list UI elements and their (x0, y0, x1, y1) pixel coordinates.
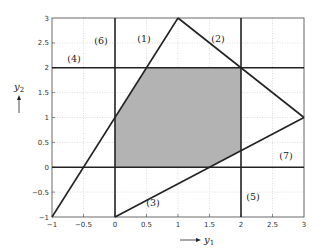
svg-text:0.5: 0.5 (141, 221, 152, 229)
label-4: (4) (67, 53, 80, 64)
svg-text:1: 1 (45, 114, 49, 122)
svg-text:2.5: 2.5 (267, 221, 278, 229)
y-tick-labels: −1 −0.5 0 0.5 1 1.5 2 2.5 3 (32, 15, 49, 222)
svg-text:2.5: 2.5 (38, 39, 49, 47)
svg-text:0.5: 0.5 (38, 139, 49, 147)
x-axis-label: y1 (180, 234, 214, 247)
feasible-region (115, 68, 241, 168)
feasible-region-chart: (1) (2) (3) (4) (5) (6) (7) −1 −0.5 0 0.… (0, 0, 322, 249)
svg-text:1: 1 (176, 221, 180, 229)
svg-text:1.5: 1.5 (38, 89, 49, 97)
svg-text:−1: −1 (39, 214, 49, 222)
label-7: (7) (279, 150, 292, 161)
label-5: (5) (246, 191, 259, 202)
svg-text:y2: y2 (13, 81, 24, 94)
y-axis-label: y2 (13, 81, 24, 113)
svg-text:0: 0 (113, 221, 117, 229)
label-6: (6) (94, 35, 107, 46)
svg-text:2: 2 (45, 64, 49, 72)
svg-text:3: 3 (302, 221, 306, 229)
y-arrowhead-icon (17, 95, 21, 100)
svg-text:−0.5: −0.5 (32, 189, 49, 197)
svg-text:−0.5: −0.5 (75, 221, 92, 229)
svg-text:2: 2 (239, 221, 243, 229)
label-3: (3) (146, 197, 159, 208)
svg-text:3: 3 (45, 15, 49, 23)
svg-text:1.5: 1.5 (204, 221, 215, 229)
label-2: (2) (211, 33, 224, 44)
x-tick-labels: −1 −0.5 0 0.5 1 1.5 2 2.5 3 (47, 221, 306, 229)
svg-text:0: 0 (45, 164, 49, 172)
x-arrowhead-icon (196, 238, 201, 242)
svg-text:−1: −1 (47, 221, 57, 229)
label-1: (1) (137, 33, 150, 44)
svg-text:y1: y1 (203, 234, 214, 247)
